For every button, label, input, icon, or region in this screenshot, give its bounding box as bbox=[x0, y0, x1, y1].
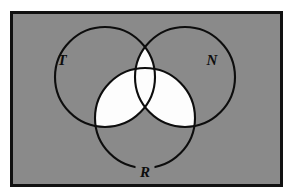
set-label-n: N bbox=[206, 52, 219, 68]
figure-root: T N R bbox=[0, 0, 290, 195]
set-label-t: T bbox=[57, 52, 67, 68]
venn-diagram-svg: T N R bbox=[0, 0, 290, 195]
set-label-r: R bbox=[139, 164, 150, 180]
